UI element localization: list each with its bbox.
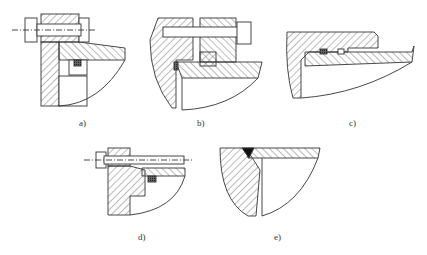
panel-label-b: b) [197,118,205,128]
panel-label-a: a) [79,118,86,128]
panel-label-c: c) [349,118,356,128]
panel-e-drawing [220,148,320,216]
panel-b-drawing [150,18,262,110]
panel-label-d: d) [138,232,146,242]
panel-label-e: e) [274,232,281,242]
panel-a-drawing [12,14,125,106]
panel-d-drawing [84,148,192,215]
engineering-drawing [0,0,427,255]
panel-c-drawing [287,32,414,98]
